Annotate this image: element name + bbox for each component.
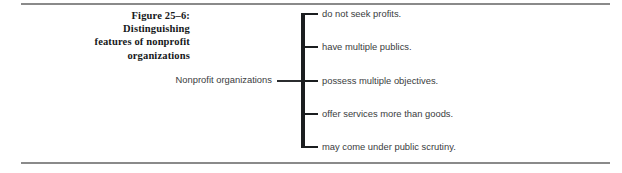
branch-item: may come under public scrutiny. <box>303 140 456 154</box>
branch-stub-line <box>303 46 318 48</box>
branch-item: do not seek profits. <box>303 7 401 21</box>
branch-item: offer services more than goods. <box>303 107 453 121</box>
figure-caption-line-4: organizations <box>30 49 190 62</box>
branch-stub-line <box>303 80 318 82</box>
figure-caption: Figure 25–6: Distinguishing features of … <box>30 9 190 62</box>
figure-caption-line-2: Distinguishing <box>30 22 190 35</box>
figure-top-rule <box>21 3 610 5</box>
branch-stub-line <box>303 146 318 148</box>
branch-label: possess multiple objectives. <box>322 75 438 87</box>
branch-label: have multiple publics. <box>322 41 412 53</box>
branch-stub-line <box>303 13 318 15</box>
root-node-label: Nonprofit organizations <box>168 74 272 86</box>
root-leader-line <box>277 80 304 82</box>
branch-item: have multiple publics. <box>303 40 412 54</box>
branch-item: possess multiple objectives. <box>303 74 438 88</box>
figure-caption-line-3: features of nonprofit <box>30 35 190 48</box>
figure-caption-line-1: Figure 25–6: <box>30 9 190 22</box>
figure-container: Figure 25–6: Distinguishing features of … <box>0 0 622 173</box>
branch-label: may come under public scrutiny. <box>322 141 456 153</box>
branch-label: offer services more than goods. <box>322 108 453 120</box>
branch-label: do not seek profits. <box>322 8 401 20</box>
branch-stub-line <box>303 113 318 115</box>
figure-bottom-rule <box>21 162 610 164</box>
